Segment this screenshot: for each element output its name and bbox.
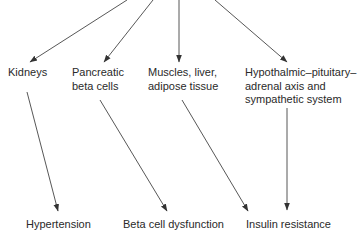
node-hpa-line-3: sympathetic system [245, 93, 356, 107]
node-beta-dysfunction-label: Beta cell dysfunction [123, 218, 224, 232]
node-kidneys-line-1: Kidneys [8, 66, 47, 80]
node-hypertension-label: Hypertension [26, 218, 91, 232]
node-pancreatic-line-1: Pancreatic [72, 66, 124, 80]
node-insulin-resistance-label: Insulin resistance [246, 218, 331, 232]
node-pancreatic-line-2: beta cells [72, 80, 124, 94]
node-beta-cell-dysfunction: Beta cell dysfunction [123, 218, 224, 232]
arrow-source-to-pancreatic [104, 0, 153, 62]
node-insulin-resistance: Insulin resistance [246, 218, 331, 232]
node-pancreatic-beta-cells: Pancreatic beta cells [72, 66, 124, 93]
flow-diagram [0, 0, 358, 238]
arrow-muscles-to-insulin-resistance [182, 100, 248, 211]
node-muscles-line-2: adipose tissue [148, 80, 218, 94]
node-muscles-liver-adipose: Muscles, liver, adipose tissue [148, 66, 218, 93]
arrow-source-to-kidneys [30, 0, 127, 62]
node-hypertension: Hypertension [26, 218, 91, 232]
node-hpa-line-1: Hypothalmic–pituitary– [245, 66, 356, 80]
arrow-source-to-hpa [215, 0, 287, 62]
node-kidneys: Kidneys [8, 66, 47, 80]
arrow-pancreatic-to-beta-dysfunction [100, 100, 167, 211]
node-hpa-axis-sympathetic: Hypothalmic–pituitary– adrenal axis and … [245, 66, 356, 107]
node-muscles-line-1: Muscles, liver, [148, 66, 218, 80]
arrow-kidneys-to-hypertension [27, 92, 58, 211]
node-hpa-line-2: adrenal axis and [245, 80, 356, 94]
